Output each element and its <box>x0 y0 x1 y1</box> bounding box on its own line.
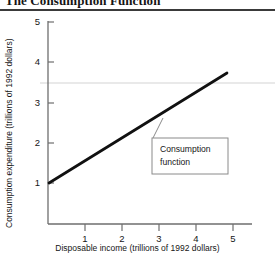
x-tick-label: 3 <box>156 233 161 244</box>
x-tick-label: 2 <box>119 233 124 244</box>
x-tick-label: 1 <box>82 233 87 244</box>
y-axis-ticks <box>48 22 54 183</box>
y-tick-label: 2 <box>35 137 40 148</box>
y-tick-label: 3 <box>35 97 40 108</box>
x-axis-ticks <box>85 224 233 231</box>
y-tick-label: 5 <box>35 16 40 27</box>
y-tick-label: 1 <box>35 177 40 188</box>
y-tick-label: 4 <box>35 56 40 67</box>
annotation-label-line1: Consumption <box>160 144 211 154</box>
annotation-label-line2: function <box>160 157 190 167</box>
x-tick-label: 4 <box>193 233 198 244</box>
chart-plot-area: 5 4 3 2 1 1 2 3 4 5 Consumption function <box>0 0 275 261</box>
figure-container: The Consumption Function Consumption exp… <box>0 0 275 261</box>
x-tick-label: 5 <box>230 233 235 244</box>
callout-leader-line <box>153 118 163 138</box>
